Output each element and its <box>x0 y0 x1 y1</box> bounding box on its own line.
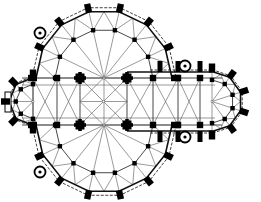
choir-buttress <box>198 61 203 72</box>
north-apse-pier <box>91 28 95 32</box>
buttress-block <box>116 3 124 13</box>
buttress-block <box>116 190 124 200</box>
north-apse-pier <box>146 55 150 59</box>
nave-pier <box>54 75 60 81</box>
floor-plan-diagram <box>0 0 261 202</box>
buttress-block <box>226 123 236 134</box>
choir-buttress <box>198 131 203 142</box>
south-apse-buttress <box>163 151 174 161</box>
west-apse-buttress <box>30 70 36 79</box>
south-apse-pier <box>71 161 75 165</box>
north-apse-ambulatory-rib <box>115 18 133 30</box>
south-apse-buttress <box>171 122 180 128</box>
south-apse-ambulatory-rib <box>133 163 135 184</box>
north-apse-ambulatory-rib <box>39 63 55 78</box>
south-apse-pier <box>58 144 62 148</box>
east-apse-wall-band <box>212 70 242 134</box>
north-apse-buttress <box>163 42 174 52</box>
buttress-block <box>34 151 45 161</box>
north-apse-ambulatory-rib <box>62 25 74 40</box>
crossing-pier-arm <box>125 119 129 131</box>
north-apse-ambulatory-rib <box>39 57 60 63</box>
north-apse-ambulatory-rib <box>52 37 73 40</box>
stair-newel <box>38 170 41 173</box>
south-apse-pier <box>113 171 117 175</box>
west-apse-buttress <box>1 98 10 104</box>
buttress-block <box>30 125 36 134</box>
east-apse-ambulatory <box>212 80 233 123</box>
buttress-block <box>209 131 215 140</box>
south-apse-ambulatory-rib <box>39 140 60 146</box>
north-apse-ambulatory-rib <box>115 12 119 31</box>
south-apse-wall-band <box>32 125 176 195</box>
east-apse-buttress <box>226 69 236 80</box>
south-apse-pier <box>132 161 136 165</box>
south-apse-ambulatory-rib <box>89 173 93 192</box>
south-apse-buttress <box>34 151 45 161</box>
south-apse-ambulatory-rib <box>135 163 147 178</box>
north-apse-ambulatory-rib <box>133 18 135 39</box>
south-apse-ambulatory-rib <box>52 163 73 166</box>
south-apse-ambulatory-rib <box>73 163 75 184</box>
crossing-pier-arm <box>125 72 129 84</box>
buttress-block <box>163 42 174 52</box>
buttress-block <box>171 122 180 128</box>
buttress-block <box>143 17 154 28</box>
north-apse-ambulatory-rib <box>135 37 156 40</box>
nave-pier <box>54 122 60 128</box>
west-apse-pier <box>31 82 35 86</box>
north-apse-ambulatory-rib <box>104 12 115 31</box>
buttress-block <box>54 175 65 186</box>
buttress-block <box>209 64 215 73</box>
south-apse-ambulatory-rib <box>39 125 55 140</box>
nave-pier <box>197 75 203 81</box>
north-apse-buttress <box>171 75 180 81</box>
east-apse-pier <box>230 93 234 97</box>
south-apse-pier <box>91 171 95 175</box>
north-apse-ambulatory-rib <box>93 12 104 31</box>
south-apse-ambulatory-rib <box>93 173 104 192</box>
vault-ribs <box>9 12 241 192</box>
east-apse-buttress <box>239 107 250 116</box>
west-apse-boss <box>32 100 34 102</box>
buttress-block <box>226 69 236 80</box>
south-apse-pier <box>146 144 150 148</box>
north-apse-ambulatory <box>55 30 153 78</box>
east-apse-radiating-rib <box>212 95 233 102</box>
east-apse-radiating-rib <box>212 102 233 109</box>
north-apse-ambulatory-rib <box>73 18 75 39</box>
buttress-block <box>84 190 92 200</box>
nave-pier <box>150 75 156 81</box>
crossing-pier-arm <box>78 72 82 84</box>
east-apse-buttress <box>209 64 215 73</box>
south-apse-ambulatory-rib <box>75 173 93 185</box>
nave-pier <box>197 122 203 128</box>
north-apse-buttress <box>34 42 45 52</box>
east-apse-wall <box>212 72 241 132</box>
north-apse-buttress <box>84 3 92 13</box>
east-apse-buttress <box>239 87 250 96</box>
east-apse-pier <box>222 117 226 121</box>
north-apse-ambulatory-rib <box>75 18 93 30</box>
choir-buttress <box>158 61 163 72</box>
east-apse-radiating-rib <box>212 102 225 119</box>
buttress-block <box>239 107 250 116</box>
stair-newel <box>183 135 186 138</box>
choir-buttress <box>158 131 163 142</box>
nave-pier <box>150 122 156 128</box>
east-apse-buttress <box>226 123 236 134</box>
west-apse-pier <box>31 117 35 121</box>
buttress-block <box>239 87 250 96</box>
west-apse-pier <box>14 99 18 103</box>
east-apse-pier <box>210 78 214 82</box>
buttress-block <box>34 42 45 52</box>
south-apse-ambulatory-rib <box>115 173 119 192</box>
buttress-block <box>163 151 174 161</box>
east-apse-buttress <box>209 131 215 140</box>
south-apse-ambulatory-rib <box>115 173 133 185</box>
west-apse-pier <box>19 112 23 116</box>
north-apse-pier <box>58 55 62 59</box>
north-apse-buttress <box>116 3 124 13</box>
stair-newel <box>38 31 41 34</box>
south-apse-ambulatory-rib <box>135 163 156 166</box>
